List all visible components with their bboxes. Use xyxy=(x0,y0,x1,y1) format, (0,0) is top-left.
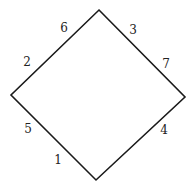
edge-label: 5 xyxy=(24,123,32,135)
edge-label: 4 xyxy=(160,124,168,136)
diamond-diagram: 6 2 3 7 5 1 4 xyxy=(0,0,196,189)
edge-label: 1 xyxy=(54,154,62,166)
diamond-outline xyxy=(0,0,196,189)
edge-label: 3 xyxy=(129,24,137,36)
edge-label: 6 xyxy=(60,22,68,34)
edge-label: 2 xyxy=(23,56,31,68)
edge-label: 7 xyxy=(162,58,170,70)
